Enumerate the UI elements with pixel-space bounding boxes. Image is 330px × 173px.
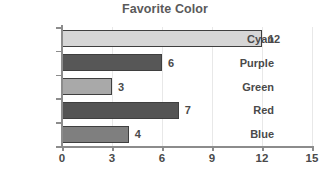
y-axis-tick — [56, 75, 62, 77]
y-axis-tick — [56, 98, 62, 100]
y-axis-tick — [56, 51, 62, 53]
category-label-red: Red — [253, 105, 274, 116]
x-axis-tick — [62, 146, 64, 151]
x-axis-label: 6 — [147, 153, 177, 165]
y-axis-tick — [56, 122, 62, 124]
x-axis-tick — [162, 146, 164, 151]
bar-chart: Favorite Color 126374 CyanPurpleGreenRed… — [0, 0, 330, 173]
bar-value-label: 4 — [135, 129, 141, 140]
x-axis-label: 3 — [97, 153, 127, 165]
bar-green — [62, 78, 112, 95]
x-axis-label: 15 — [297, 153, 327, 165]
bar-value-label: 6 — [168, 58, 174, 69]
bar-value-label: 3 — [118, 82, 124, 93]
category-label-green: Green — [242, 82, 274, 93]
y-axis-line — [61, 25, 63, 148]
category-label-cyan: Cyan — [247, 34, 274, 45]
bar-blue — [62, 126, 129, 143]
bar-value-label: 7 — [185, 105, 191, 116]
bar-red — [62, 102, 179, 119]
category-label-purple: Purple — [240, 58, 274, 69]
x-axis-tick — [212, 146, 214, 151]
x-axis-label: 12 — [247, 153, 277, 165]
bar-purple — [62, 54, 162, 71]
gridline — [312, 27, 313, 146]
plot-area: 126374 — [62, 27, 312, 146]
x-axis-line — [61, 146, 312, 148]
x-axis-tick — [112, 146, 114, 151]
category-label-blue: Blue — [250, 129, 274, 140]
x-axis-label: 0 — [47, 153, 77, 165]
chart-title: Favorite Color — [0, 2, 330, 16]
bar-cyan — [62, 30, 262, 47]
y-axis-tick — [56, 27, 62, 29]
x-axis-tick — [312, 146, 314, 151]
x-axis-label: 9 — [197, 153, 227, 165]
x-axis-tick — [262, 146, 264, 151]
